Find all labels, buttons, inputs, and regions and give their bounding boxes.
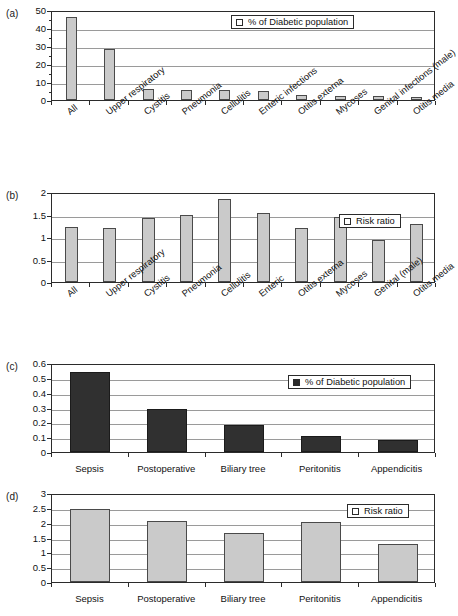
- panel-c-legend: % of Diabetic population: [288, 375, 411, 389]
- y-axis-tick-mark: [47, 494, 51, 495]
- x-axis-tick-mark: [397, 283, 398, 287]
- y-axis-tick-mark: [47, 364, 51, 365]
- x-axis-tick-mark: [281, 283, 282, 287]
- x-axis-tick-mark: [435, 283, 436, 287]
- x-axis-tick-mark: [128, 101, 129, 105]
- x-axis-tick-mark: [281, 101, 282, 105]
- bar: [411, 97, 422, 100]
- y-axis-tick-mark: [47, 553, 51, 554]
- x-axis-tick-mark: [128, 583, 129, 587]
- y-axis-tick-label: 3: [41, 489, 46, 499]
- legend-swatch-icon: [352, 508, 359, 515]
- bar: [410, 224, 423, 282]
- x-axis-category-label: Peritonitis: [281, 464, 358, 474]
- x-axis-tick-mark: [205, 101, 206, 105]
- y-axis-tick-label: 20: [35, 60, 46, 70]
- panel-b-legend-label: Risk ratio: [356, 216, 395, 226]
- bar: [257, 213, 270, 282]
- legend-swatch-icon: [344, 218, 351, 225]
- x-axis-tick-mark: [435, 583, 436, 587]
- y-axis-tick-mark: [47, 193, 51, 194]
- panel-d: (d) 00.511.522.53SepsisPostoperativeBili…: [0, 485, 443, 616]
- x-axis-tick-mark: [358, 453, 359, 457]
- x-axis-category-label: Appendicitis: [358, 464, 435, 474]
- bar: [104, 49, 115, 100]
- x-axis-category-label: All: [65, 103, 79, 117]
- x-axis-tick-mark: [205, 283, 206, 287]
- x-axis-tick-mark: [320, 101, 321, 105]
- x-axis-category-label: All: [65, 285, 79, 299]
- x-axis-tick-mark: [435, 101, 436, 105]
- y-axis-tick-label: 0.2: [33, 418, 46, 428]
- x-axis-tick-mark: [51, 453, 52, 457]
- y-axis-tick-mark: [47, 29, 51, 30]
- bar: [70, 372, 110, 452]
- y-axis-tick-label: 1.5: [33, 534, 46, 544]
- bar: [335, 96, 346, 100]
- panel-c-legend-label: % of Diabetic population: [305, 377, 405, 387]
- bar: [147, 409, 187, 452]
- panel-b-plot-area: [51, 193, 435, 283]
- bar: [65, 227, 78, 282]
- y-axis-tick-label: 10: [35, 78, 46, 88]
- bar: [301, 436, 341, 452]
- bar: [66, 17, 77, 100]
- bar: [258, 91, 269, 100]
- x-axis-category-label: Peritonitis: [281, 594, 358, 604]
- panel-a-letter: (a): [6, 8, 19, 19]
- x-axis-category-label: Sepsis: [51, 594, 128, 604]
- panel-a-legend: % of Diabetic population: [231, 15, 354, 29]
- x-axis-tick-mark: [128, 283, 129, 287]
- y-axis-tick-mark: [47, 509, 51, 510]
- x-axis-category-label: Biliary tree: [205, 464, 282, 474]
- bar: [70, 509, 110, 582]
- x-axis-tick-mark: [128, 453, 129, 457]
- y-axis-tick-mark: [47, 47, 51, 48]
- y-axis-tick-mark: [47, 261, 51, 262]
- y-axis-minor-tick: [49, 20, 51, 21]
- x-axis-tick-mark: [358, 583, 359, 587]
- panel-d-legend: Risk ratio: [347, 504, 409, 518]
- x-axis-tick-mark: [166, 283, 167, 287]
- panel-b-letter: (b): [6, 190, 19, 201]
- x-axis-tick-mark: [166, 101, 167, 105]
- x-axis-category-label: Biliary tree: [205, 594, 282, 604]
- y-axis-tick-label: 0: [41, 278, 46, 288]
- x-axis-tick-mark: [51, 283, 52, 287]
- x-axis-tick-mark: [205, 453, 206, 457]
- y-axis-tick-mark: [47, 568, 51, 569]
- y-axis-tick-label: 2: [41, 188, 46, 198]
- gridline: [52, 30, 434, 31]
- x-axis-tick-mark: [205, 583, 206, 587]
- y-axis-tick-label: 0.1: [33, 433, 46, 443]
- x-axis-tick-mark: [397, 101, 398, 105]
- y-axis-tick-label: 0: [41, 96, 46, 106]
- bar: [301, 522, 341, 582]
- y-axis-tick-label: 1: [41, 233, 46, 243]
- panel-a-legend-label: % of Diabetic population: [248, 17, 348, 27]
- y-axis-minor-tick: [49, 38, 51, 39]
- bar: [180, 215, 193, 282]
- bar: [103, 228, 116, 282]
- y-axis-tick-label: 0.5: [33, 256, 46, 266]
- bar: [219, 90, 230, 100]
- x-axis-tick-mark: [281, 453, 282, 457]
- y-axis-tick-mark: [47, 83, 51, 84]
- bar: [372, 240, 385, 282]
- y-axis-tick-label: 0: [41, 578, 46, 588]
- x-axis-category-label: Sepsis: [51, 464, 128, 474]
- y-axis-tick-label: 0.6: [33, 359, 46, 369]
- panel-d-letter: (d): [6, 491, 19, 502]
- panel-b: (b) 00.511.52AllUpper respiratoryCystiti…: [0, 186, 443, 356]
- panel-c-letter: (c): [6, 361, 18, 372]
- y-axis-tick-label: 1.5: [33, 211, 46, 221]
- y-axis-tick-label: 30: [35, 42, 46, 52]
- bar: [147, 521, 187, 582]
- y-axis-tick-label: 50: [35, 6, 46, 16]
- y-axis-tick-label: 0.5: [33, 563, 46, 573]
- x-axis-category-label: Postoperative: [128, 594, 205, 604]
- y-axis-tick-mark: [47, 524, 51, 525]
- y-axis-minor-tick: [49, 56, 51, 57]
- y-axis-tick-label: 40: [35, 24, 46, 34]
- y-axis-tick-mark: [47, 394, 51, 395]
